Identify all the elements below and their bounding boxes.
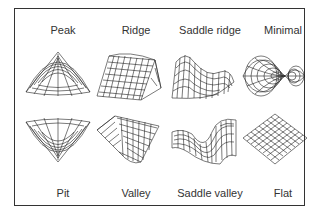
saddle-ridge-surface-icon [168,48,240,102]
label-ridge: Ridge [96,24,176,36]
label-saddle-ridge: Saddle ridge [170,24,250,36]
peak-surface-icon [24,48,92,102]
ridge-surface-icon [95,48,165,102]
valley-surface-icon [95,112,165,166]
diagram-frame [14,8,305,206]
label-pit: Pit [23,187,103,199]
label-valley: Valley [96,187,176,199]
label-peak: Peak [23,24,103,36]
minimal-surface-icon [241,48,313,102]
label-saddle-valley: Saddle valley [170,187,250,199]
pit-surface-icon [24,112,92,166]
flat-surface-icon [241,112,313,166]
label-minimal: Minimal [243,24,323,36]
label-flat: Flat [243,187,323,199]
saddle-valley-surface-icon [168,112,240,166]
